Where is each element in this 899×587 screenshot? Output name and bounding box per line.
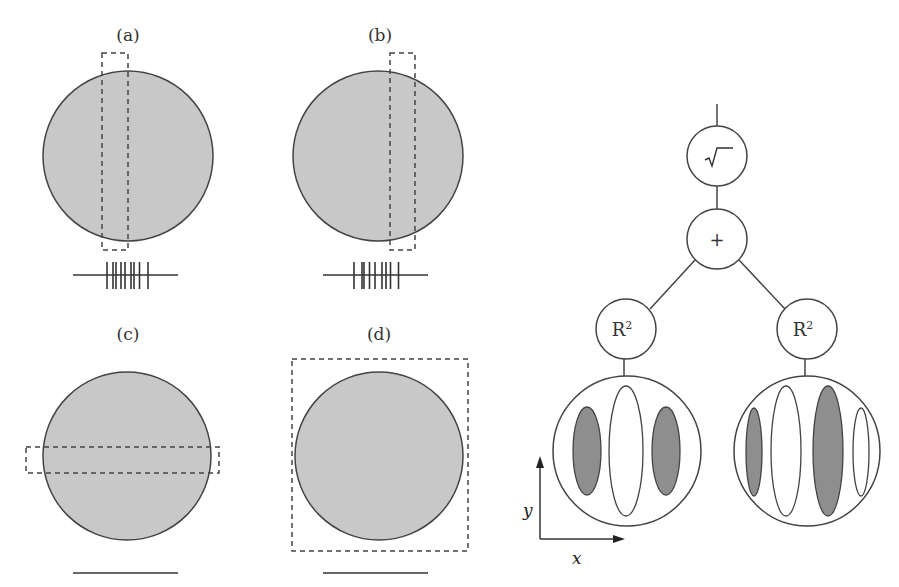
panel-b-disk [293, 71, 463, 241]
panel-d-disk [295, 372, 463, 540]
rf-right-lobe-light [853, 408, 869, 496]
x-axis-label: x [572, 548, 582, 568]
panel-c: (c) [26, 324, 219, 573]
rf-left-lobe-dark [652, 407, 680, 495]
panel-a-label: (a) [116, 25, 139, 45]
panel-b: (b) [293, 25, 463, 289]
rf-left-lobe-dark [573, 407, 601, 495]
receptive-field-left [553, 376, 701, 526]
plus-icon: + [709, 229, 724, 250]
rf-right-lobe-light [771, 386, 801, 516]
sqrt-node [687, 126, 747, 186]
sum-to-right-edge [739, 260, 785, 309]
panel-d: (d) [292, 324, 468, 573]
panel-c-disk [43, 372, 211, 540]
rf-left-lobe-light [609, 386, 643, 516]
receptive-field-right [734, 376, 880, 526]
y-axis-arrow-icon [536, 456, 544, 468]
panel-d-label: (d) [367, 324, 391, 344]
sum-to-left-edge [650, 260, 695, 309]
energy-model-tree: + R2 R2 y x [522, 104, 880, 568]
x-axis-arrow-icon [613, 535, 625, 543]
rf-right-lobe-dark [746, 408, 762, 496]
figure-canvas: (a) (b) (c) (d) + [0, 0, 899, 587]
panel-a: (a) [43, 25, 213, 289]
y-axis-label: y [522, 500, 533, 520]
panel-b-label: (b) [368, 25, 392, 45]
rf-right-lobe-dark [813, 386, 843, 516]
panel-c-label: (c) [117, 324, 140, 344]
